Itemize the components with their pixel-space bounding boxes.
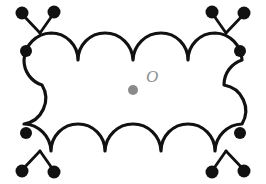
center-point-dot: [128, 85, 138, 95]
bottom-right-bug: [206, 127, 251, 179]
top-left-bug: [16, 6, 61, 58]
foot-dot: [238, 165, 251, 178]
figure-canvas: O: [0, 0, 266, 184]
eye-dot: [234, 45, 246, 57]
foot-dot: [48, 166, 61, 179]
eye-dot: [20, 127, 32, 139]
antenna-tip-dot: [16, 7, 29, 20]
eye-dot: [234, 127, 246, 139]
foot-dot: [16, 165, 29, 178]
top-right-bug: [206, 6, 251, 58]
eye-dot: [20, 45, 32, 57]
antenna-tip-dot: [48, 6, 61, 19]
bottom-left-bug: [16, 127, 61, 179]
antenna-tip-dot: [206, 6, 219, 19]
antenna-tip-dot: [238, 7, 251, 20]
foot-dot: [206, 166, 219, 179]
center-point-label: O: [146, 67, 158, 86]
symmetry-figure: O: [0, 0, 266, 184]
